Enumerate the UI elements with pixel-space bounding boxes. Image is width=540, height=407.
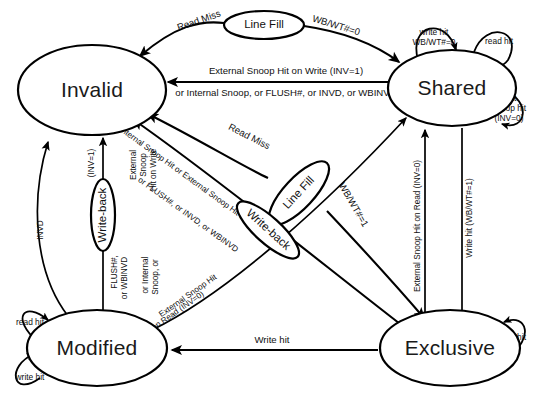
state-label-modified: Modified: [57, 336, 138, 359]
edge-label-or-internal-snoop-top: or Internal Snoop, or FLUSH#, or INVD, o…: [175, 87, 396, 98]
edge-label-or-internal-left: or Internal: [141, 256, 150, 293]
transition-exclusive-to-shared-read: External Snoop Hit on Read (INV=0): [413, 130, 425, 322]
edge-label-read-miss-mid: Read Miss: [227, 121, 273, 151]
edge-label-ext-snoop-left-4: (INV=1): [87, 149, 96, 178]
edge-label-ext-snoop-read-vert: External Snoop Hit on Read (INV=0): [413, 160, 422, 292]
state-label-shared: Shared: [418, 76, 487, 99]
bubble-label-line-fill-top: Line Fill: [244, 18, 284, 30]
loop-label-shared-write-hit-2: WB/WT#=0: [412, 37, 455, 47]
state-node-exclusive[interactable]: Exclusive: [380, 310, 520, 386]
edge-label-or-internal-left-2: Snoop, or: [151, 259, 160, 295]
state-node-invalid[interactable]: Invalid: [18, 45, 166, 135]
transition-shared-to-invalid-snoop: External Snoop Hit on Write (INV=1) or I…: [168, 65, 400, 98]
transition-modified-to-invalid-invd: INVD: [36, 142, 68, 316]
loop-label-modified-write-hit: write hit: [15, 372, 46, 382]
edge-label-wb-wt-0-top: WB/WT#=0: [311, 13, 361, 38]
edge-label-ext-snoop-write-top: External Snoop Hit on Write (INV=1): [209, 65, 363, 76]
edge-label-ext-snoop-left-1: External: [129, 150, 138, 180]
state-diagram-canvas: Read Miss WB/WT#=0 External Snoop Hit on…: [0, 0, 540, 407]
state-node-shared[interactable]: Shared: [388, 50, 516, 126]
state-node-modified[interactable]: Modified: [27, 310, 167, 386]
edge-label-write-hit-bottom: Write hit: [254, 334, 289, 345]
edge-label-invd-left: INVD: [36, 220, 45, 240]
transition-exclusive-to-modified-writehit: Write hit: [172, 334, 378, 350]
bubble-line-fill-top: Line Fill: [224, 11, 304, 39]
edge-label-or-wbinvd-left: or WBINVD: [120, 257, 129, 299]
transition-shared-to-exclusive-writehit: Write hit (WB/WT#=1): [462, 128, 474, 318]
state-label-invalid: Invalid: [61, 78, 123, 101]
edge-label-ext-snoop-left-3: Hit on Write: [149, 148, 158, 191]
edge-label-ext-snoop-left-2: Snoop: [139, 153, 148, 177]
loop-label-shared-read-hit: read hit: [485, 36, 514, 46]
bubble-write-back-left: Write-back: [91, 179, 115, 251]
edge-label-or-flush-left: FLUSH#,: [110, 255, 119, 289]
mesi-state-diagram: Read Miss WB/WT#=0 External Snoop Hit on…: [0, 0, 540, 407]
edge-label-write-hit-wb-wt1-vert: Write hit (WB/WT#=1): [465, 178, 474, 258]
edge-label-read-miss-top: Read Miss: [175, 7, 222, 32]
edge-label-wb-wt-1-mid: WB/WT#=1: [337, 180, 371, 228]
state-label-exclusive: Exclusive: [405, 336, 496, 359]
loop-label-shared-write-hit-1: write hit: [419, 27, 450, 37]
bubble-label-write-back-left: Write-back: [96, 187, 108, 242]
